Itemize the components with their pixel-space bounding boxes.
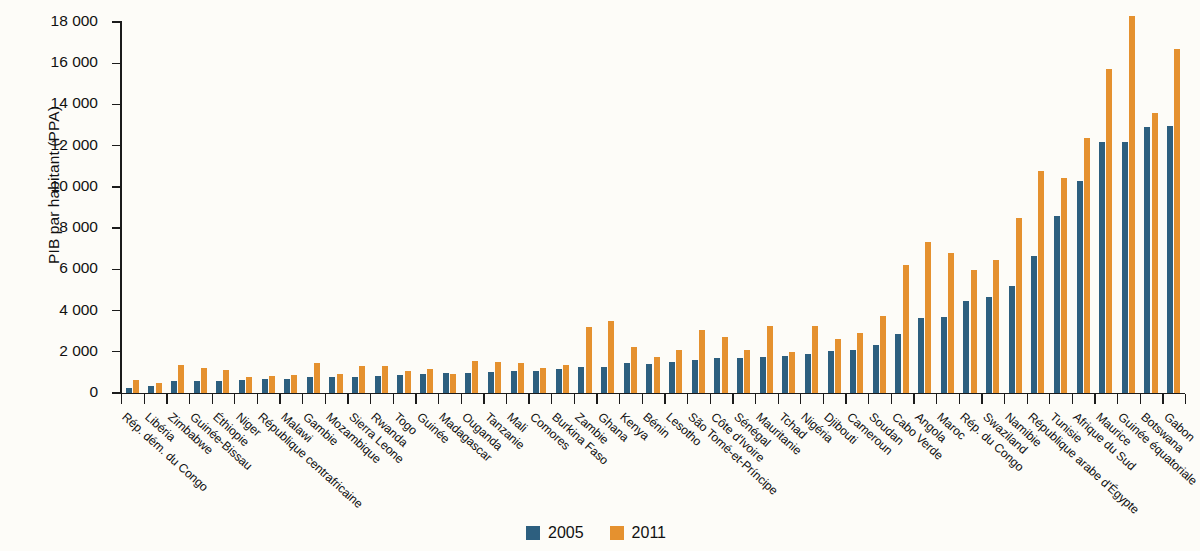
x-axis-tick xyxy=(528,394,529,404)
bar-2011 xyxy=(1174,49,1180,393)
bar-2005 xyxy=(511,371,517,393)
bar-2011 xyxy=(133,380,139,393)
x-axis-tick xyxy=(302,394,303,404)
x-axis-tick xyxy=(913,394,914,404)
bar-2005 xyxy=(714,358,720,393)
bar-2005 xyxy=(148,386,154,393)
bar-2005 xyxy=(1009,286,1015,393)
x-axis-tick xyxy=(1140,394,1141,404)
y-axis-tick xyxy=(112,104,120,105)
bar-2005 xyxy=(556,369,562,393)
y-axis-tick xyxy=(112,21,120,22)
legend-swatch-icon xyxy=(526,526,540,540)
bar-2011 xyxy=(857,333,863,393)
x-axis-tick xyxy=(755,394,756,404)
legend-swatch-icon xyxy=(610,526,624,540)
bar-2005 xyxy=(918,318,924,393)
x-axis-tick xyxy=(642,394,643,404)
bar-2005 xyxy=(578,367,584,393)
y-axis-tick-label: 2 000 xyxy=(0,342,98,360)
x-axis-tick xyxy=(981,394,982,404)
bar-2011 xyxy=(1129,16,1135,393)
bar-2005 xyxy=(782,356,788,393)
bar-2005 xyxy=(850,350,856,393)
y-axis-tick-label: 10 000 xyxy=(0,177,98,195)
bar-2005 xyxy=(1144,127,1150,393)
bar-2011 xyxy=(246,377,252,393)
legend-label: 2011 xyxy=(632,524,666,542)
bar-2011 xyxy=(812,326,818,393)
legend-item: 2005 xyxy=(526,524,584,542)
y-axis-tick xyxy=(112,392,120,393)
y-axis-tick xyxy=(112,186,120,187)
x-axis-tick xyxy=(1185,394,1186,404)
bar-2011 xyxy=(971,270,977,393)
y-axis-tick-label: 16 000 xyxy=(0,53,98,71)
bar-2011 xyxy=(223,370,229,393)
bar-2011 xyxy=(178,365,184,393)
bar-2011 xyxy=(450,374,456,393)
bar-2005 xyxy=(443,373,449,393)
bar-2011 xyxy=(382,366,388,393)
bar-2011 xyxy=(156,383,162,393)
x-axis-tick xyxy=(279,394,280,404)
bar-2005 xyxy=(1099,142,1105,393)
bar-2005 xyxy=(420,374,426,393)
bar-2011 xyxy=(948,253,954,393)
y-axis-tick xyxy=(112,145,120,146)
bar-2011 xyxy=(314,363,320,393)
bar-2005 xyxy=(216,381,222,393)
x-axis-tick xyxy=(166,394,167,404)
bar-2011 xyxy=(903,265,909,393)
bar-2011 xyxy=(1038,171,1044,393)
bar-2005 xyxy=(669,362,675,393)
bar-2005 xyxy=(375,376,381,393)
x-axis-tick xyxy=(1117,394,1118,404)
bar-2011 xyxy=(767,326,773,393)
bar-2011 xyxy=(676,350,682,393)
x-axis-tick xyxy=(257,394,258,404)
bar-2011 xyxy=(608,321,614,393)
bar-2005 xyxy=(284,379,290,393)
x-axis-tick xyxy=(483,394,484,404)
bar-2005 xyxy=(533,371,539,393)
x-axis-tick xyxy=(732,394,733,404)
bar-2005 xyxy=(986,297,992,393)
bar-2011 xyxy=(472,361,478,393)
y-axis-tick-label: 14 000 xyxy=(0,94,98,112)
bar-2005 xyxy=(1167,126,1173,393)
x-axis-tick xyxy=(710,394,711,404)
bar-2011 xyxy=(359,366,365,393)
x-axis-tick xyxy=(438,394,439,404)
bar-2005 xyxy=(737,358,743,393)
x-axis-tick xyxy=(664,394,665,404)
x-axis-tick xyxy=(891,394,892,404)
bar-2011 xyxy=(744,350,750,393)
bar-2005 xyxy=(171,381,177,393)
x-axis-tick xyxy=(551,394,552,404)
bar-2011 xyxy=(1152,113,1158,393)
bar-2005 xyxy=(828,351,834,393)
bar-2005 xyxy=(963,301,969,393)
x-axis-tick xyxy=(393,394,394,404)
bar-2005 xyxy=(194,381,200,393)
x-axis-tick xyxy=(212,394,213,404)
y-axis-tick-label: 12 000 xyxy=(0,136,98,154)
bar-2011 xyxy=(722,337,728,393)
bar-2005 xyxy=(1031,256,1037,393)
bar-2005 xyxy=(262,379,268,393)
x-axis-tick xyxy=(347,394,348,404)
plot-area xyxy=(121,22,1185,393)
bar-2005 xyxy=(1077,181,1083,393)
y-axis-tick-label: 8 000 xyxy=(0,218,98,236)
bar-2005 xyxy=(692,360,698,393)
x-axis-tick xyxy=(144,394,145,404)
bar-2005 xyxy=(1122,142,1128,393)
x-axis-tick xyxy=(1094,394,1095,404)
bar-2005 xyxy=(488,372,494,393)
x-axis-tick xyxy=(234,394,235,404)
bar-2011 xyxy=(291,375,297,393)
bar-2011 xyxy=(563,365,569,393)
x-axis-tick xyxy=(370,394,371,404)
